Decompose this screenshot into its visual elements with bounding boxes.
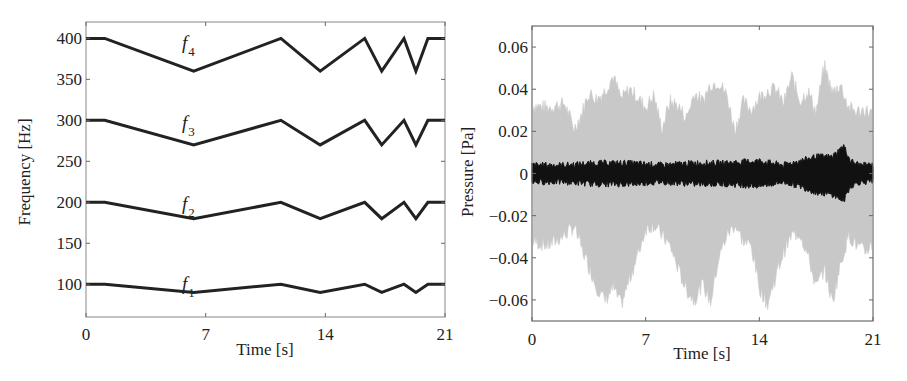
y-tick-label: −0.02 [489,207,528,226]
y-tick-label: 150 [57,234,83,253]
y-tick-label: 300 [57,111,83,130]
y-tick-label: 200 [57,193,83,212]
y-tick-label: 350 [57,70,83,89]
figure: 100150200250300350400 071421 f4f3f2f1 Ti… [0,0,907,381]
x-tick-label: 0 [528,330,537,349]
right-x-axis-label: Time [s] [673,344,730,363]
x-tick-label: 14 [317,325,335,344]
x-tick-label: 21 [865,330,882,349]
y-tick-label: 0.02 [498,122,528,141]
left-chart: 100150200250300350400 071421 f4f3f2f1 Ti… [15,22,454,359]
left-x-axis-label: Time [s] [236,340,293,359]
left-y-axis-label: Frequency [Hz] [15,118,34,225]
x-tick-label: 14 [751,330,769,349]
x-tick-label: 7 [641,330,650,349]
left-plot-frame [86,22,445,317]
right-chart: −0.06−0.04−0.0200.020.040.06 071421 Time… [458,26,882,363]
right-y-axis-label: Pressure [Pa] [458,127,477,217]
x-tick-label: 7 [201,325,210,344]
y-tick-label: 0 [520,165,529,184]
x-tick-label: 21 [437,325,454,344]
x-tick-label: 0 [82,325,91,344]
y-tick-label: 0.04 [498,80,528,99]
y-tick-label: 100 [57,275,83,294]
y-tick-label: 250 [57,152,83,171]
y-tick-label: 0.06 [498,38,528,57]
y-tick-label: 400 [57,29,83,48]
y-tick-label: −0.06 [489,291,528,310]
y-tick-label: −0.04 [489,249,529,268]
